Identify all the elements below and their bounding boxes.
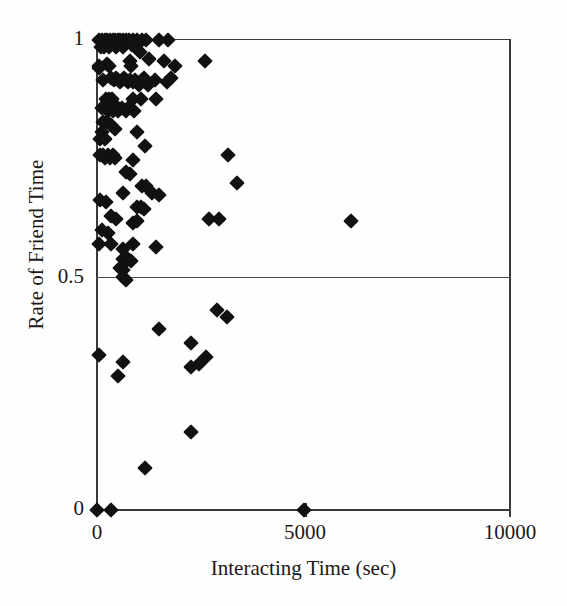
scatter-point <box>197 53 213 69</box>
scatter-point <box>148 239 164 255</box>
scatter-point <box>160 32 176 48</box>
scatter-point <box>148 91 164 107</box>
scatter-point <box>183 425 199 441</box>
scatter-plot-figure: 1 0.5 0 0 5000 10000 Rate of Friend Time… <box>0 0 567 606</box>
scatter-point <box>137 138 153 154</box>
scatter-point <box>151 321 167 337</box>
scatter-point <box>138 460 154 476</box>
scatter-point <box>296 502 312 518</box>
scatter-point <box>220 147 236 163</box>
scatter-points-layer <box>0 0 567 606</box>
scatter-point <box>91 347 107 363</box>
scatter-point <box>343 213 359 229</box>
scatter-point <box>211 211 227 227</box>
scatter-point <box>230 176 246 192</box>
scatter-point <box>111 368 127 384</box>
scatter-point <box>183 335 199 351</box>
scatter-point <box>115 185 131 201</box>
scatter-point <box>129 124 145 140</box>
scatter-point <box>104 502 120 518</box>
